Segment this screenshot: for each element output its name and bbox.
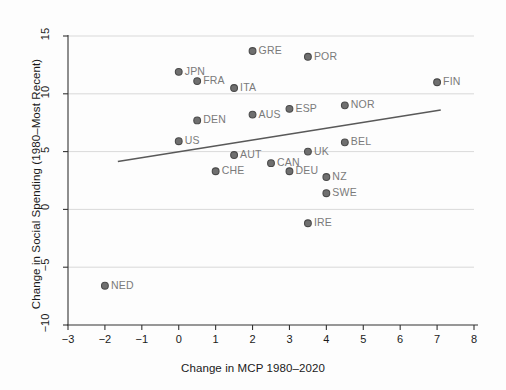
x-tick-label: 4: [311, 333, 341, 345]
data-point-label: IRE: [314, 216, 332, 228]
data-point-label: GRE: [259, 44, 282, 56]
data-point: [212, 168, 219, 175]
data-point: [286, 105, 293, 112]
data-point-label: DEN: [203, 113, 226, 125]
data-point: [323, 190, 330, 197]
y-tick-label: 0: [39, 192, 51, 222]
y-tick-label: 15: [39, 19, 51, 49]
data-point-label: AUS: [259, 108, 281, 120]
data-point: [175, 68, 182, 75]
x-tick-label: 8: [459, 333, 489, 345]
y-tick-label: −10: [39, 308, 51, 338]
data-point-label: UK: [314, 145, 329, 157]
data-point-label: ITA: [240, 81, 256, 93]
x-tick-label: 1: [201, 333, 231, 345]
data-point: [305, 53, 312, 60]
data-point-label: AUT: [240, 148, 262, 160]
data-point: [102, 282, 109, 289]
data-point-label: NOR: [351, 98, 375, 110]
y-axis-title: Change in Social Spending (1980–Most Rec…: [30, 24, 42, 344]
data-point: [341, 102, 348, 109]
y-tick-label: −5: [39, 250, 51, 280]
data-point: [268, 160, 275, 167]
data-point: [323, 174, 330, 181]
data-point-label: FRA: [203, 74, 225, 86]
data-point-label: ESP: [295, 102, 317, 114]
gridlines: [68, 36, 474, 267]
x-tick-label: 2: [238, 333, 268, 345]
data-point-label: JPN: [185, 65, 205, 77]
x-tick-label: 3: [274, 333, 304, 345]
x-tick-label: −3: [53, 333, 83, 345]
y-tick-label: 5: [39, 135, 51, 165]
x-axis-title: Change in MCP 1980–2020: [0, 362, 506, 374]
x-tick-label: 0: [164, 333, 194, 345]
y-tick-label: 10: [39, 77, 51, 107]
data-point-label: POR: [314, 50, 337, 62]
data-point: [434, 79, 441, 86]
data-point: [231, 85, 238, 92]
plot-canvas: [0, 0, 506, 390]
scatter-chart: Change in MCP 1980–2020 Change in Social…: [0, 0, 506, 390]
data-markers: [102, 48, 441, 289]
x-tick-label: 6: [385, 333, 415, 345]
data-point-label: SWE: [332, 186, 357, 198]
data-point-label: NED: [111, 279, 134, 291]
data-point-label: FIN: [443, 75, 461, 87]
x-tick-label: −2: [90, 333, 120, 345]
data-point: [286, 168, 293, 175]
data-point-label: DEU: [295, 164, 318, 176]
data-point: [249, 111, 256, 118]
data-point: [305, 220, 312, 227]
data-point: [231, 152, 238, 159]
x-tick-label: −1: [127, 333, 157, 345]
data-point: [249, 48, 256, 55]
data-point: [305, 148, 312, 155]
data-point: [194, 117, 201, 124]
data-point: [194, 78, 201, 85]
data-point-label: BEL: [351, 135, 371, 147]
x-tick-label: 5: [348, 333, 378, 345]
x-tick-label: 7: [422, 333, 452, 345]
data-point-label: US: [185, 134, 200, 146]
data-point-label: NZ: [332, 170, 346, 182]
data-point-label: CHE: [222, 164, 245, 176]
data-point: [175, 138, 182, 145]
data-point: [341, 139, 348, 146]
